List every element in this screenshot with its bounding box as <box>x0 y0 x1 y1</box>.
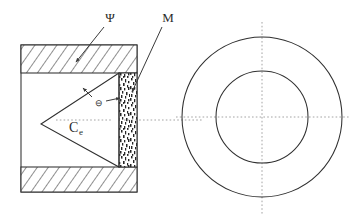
cross-section-view: Ce ⊖ <box>21 45 203 192</box>
m-label: M <box>162 10 174 25</box>
diagram-canvas: Ce ⊖ Ψ M <box>0 0 352 224</box>
lower-hatched-band <box>21 167 137 192</box>
ce-label: Ce <box>69 120 83 137</box>
electron-symbol: ⊖ <box>95 98 103 108</box>
end-view <box>176 22 349 214</box>
psi-label: Ψ <box>105 10 115 25</box>
ce-label-main: C <box>69 120 78 135</box>
electron-direction-arrow <box>106 98 120 101</box>
ce-label-subscript: e <box>79 127 83 137</box>
technical-diagram: Ce ⊖ Ψ M <box>0 0 352 224</box>
